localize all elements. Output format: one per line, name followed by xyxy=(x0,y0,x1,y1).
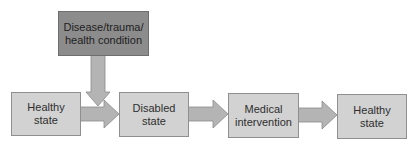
arrow-disabled-to-medical xyxy=(188,100,228,128)
arrow-medical-to-healthy xyxy=(298,101,337,129)
cause-line2: health condition xyxy=(63,34,143,47)
node-label-line2: state xyxy=(27,114,64,127)
cause-box: Disease/trauma/ health condition xyxy=(58,11,149,56)
node-label-line1: Healthy xyxy=(353,104,390,117)
node-label-line2: intervention xyxy=(235,116,292,129)
node-label-line2: state xyxy=(353,117,390,130)
node-label-line1: Healthy xyxy=(27,101,64,114)
cause-line1: Disease/trauma/ xyxy=(63,21,143,34)
node-label-line2: state xyxy=(133,115,176,128)
node-label-line1: Disabled xyxy=(133,102,176,115)
node-disabled-state: Disabled state xyxy=(119,92,189,137)
arrow-cause-down xyxy=(86,55,110,106)
node-medical-intervention: Medical intervention xyxy=(228,93,299,138)
node-label-line1: Medical xyxy=(235,103,292,116)
node-healthy-state-start: Healthy state xyxy=(11,92,81,136)
node-healthy-state-end: Healthy state xyxy=(337,94,407,139)
